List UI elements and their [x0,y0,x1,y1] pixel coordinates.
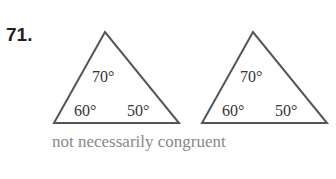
triangle-1-left-angle: 60° [74,102,96,119]
triangles-diagram: 70° 60° 50° 70° 60° 50° [0,0,336,179]
triangle-2-top-angle: 70° [240,68,262,85]
triangle-1-top-angle: 70° [92,68,114,85]
caption: not necessarily congruent [52,132,226,152]
triangle-2-right-angle: 50° [275,102,297,119]
triangle-1 [54,32,179,123]
triangle-1-right-angle: 50° [127,102,149,119]
figure: 71. 70° 60° 50° 70° 60° 50° not necessar… [0,0,336,179]
triangle-2-left-angle: 60° [222,102,244,119]
triangle-2 [202,32,327,123]
